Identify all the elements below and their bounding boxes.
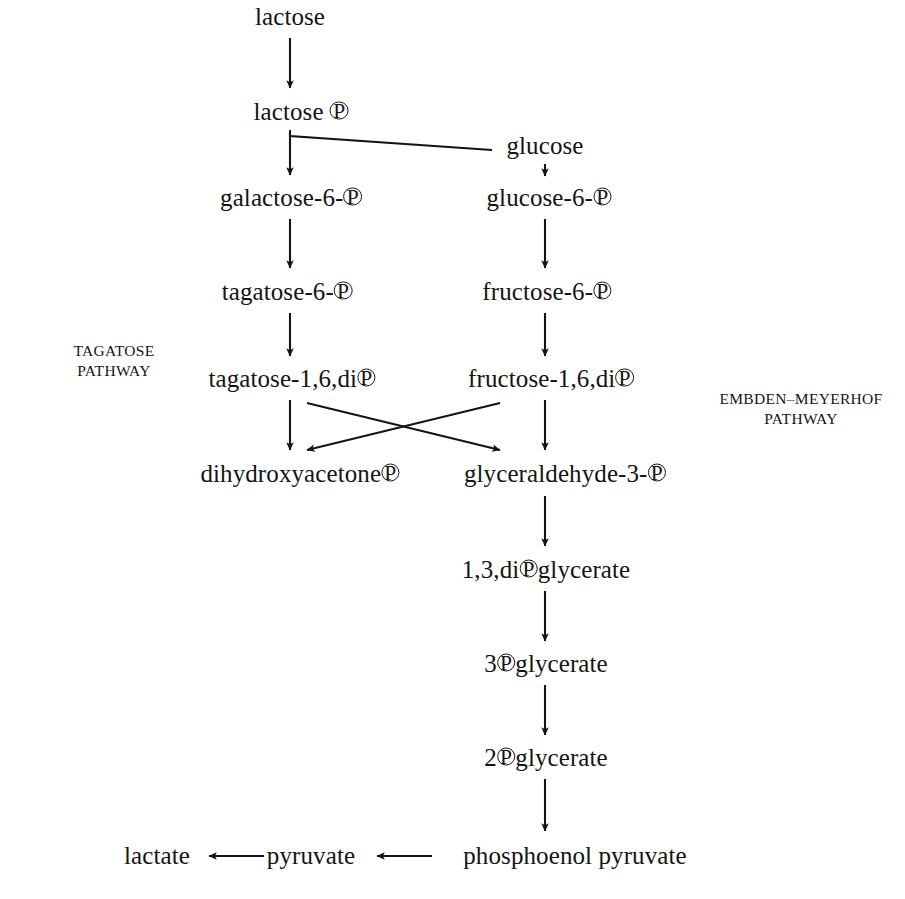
- tagatose-pathway-line2: PATHWAY: [44, 361, 184, 381]
- node-1-3-dip-glycerate: 1,3,diPglycerate: [462, 557, 631, 582]
- edge-lactose-p-to-glucose: [290, 130, 492, 150]
- node-glucose-6-p: glucose-6-P: [486, 185, 611, 210]
- embden-meyerhof-line1: EMBDEN–MEYERHOF: [703, 389, 899, 409]
- tagatose-pathway-line1: TAGATOSE: [44, 341, 184, 361]
- node-galactose-6-p: galactose-6-P: [220, 185, 362, 210]
- phosphate-icon: P: [381, 463, 399, 481]
- node-lactose: lactose: [255, 4, 325, 29]
- node-fructose-6-p: fructose-6-P: [482, 279, 611, 304]
- phosphate-icon: P: [615, 368, 633, 386]
- edge-tagatose-dip-to-g3p: [307, 403, 500, 450]
- node-dihydroxyacetone-p: dihydroxyacetoneP: [200, 461, 399, 486]
- embden-meyerhof-pathway-label: EMBDEN–MEYERHOF PATHWAY: [703, 389, 899, 429]
- node-lactose-p: lactose P: [254, 99, 349, 124]
- phosphate-icon: P: [593, 187, 611, 205]
- node-glyceraldehyde-3-p: glyceraldehyde-3-P: [464, 461, 666, 486]
- phosphate-icon: P: [593, 281, 611, 299]
- node-3-p-glycerate: 3Pglycerate: [484, 651, 608, 676]
- phosphate-icon: P: [648, 463, 666, 481]
- phosphate-icon: P: [519, 559, 537, 577]
- phosphate-icon: P: [343, 187, 361, 205]
- node-glucose: glucose: [506, 133, 583, 158]
- arrow-layer: [0, 0, 905, 899]
- phosphate-icon: P: [497, 653, 515, 671]
- node-fructose-1-6-dip: fructose-1,6,diP: [468, 366, 634, 391]
- tagatose-pathway-label: TAGATOSE PATHWAY: [44, 341, 184, 381]
- edge-fructose-dip-to-dhap: [307, 403, 500, 450]
- node-tagatose-6-p: tagatose-6-P: [222, 279, 353, 304]
- node-phosphoenol-pyruvate: phosphoenol pyruvate: [463, 843, 686, 868]
- phosphate-icon: P: [334, 281, 352, 299]
- node-tagatose-1-6-dip: tagatose-1,6,diP: [208, 366, 375, 391]
- phosphate-icon: P: [330, 101, 348, 119]
- embden-meyerhof-line2: PATHWAY: [703, 409, 899, 429]
- node-lactate: lactate: [124, 843, 190, 868]
- phosphate-icon: P: [497, 747, 515, 765]
- node-pyruvate: pyruvate: [267, 843, 355, 868]
- phosphate-icon: P: [357, 368, 375, 386]
- node-2-p-glycerate: 2Pglycerate: [484, 745, 608, 770]
- pathway-diagram: lactose lactose P glucose galactose-6-P …: [0, 0, 905, 899]
